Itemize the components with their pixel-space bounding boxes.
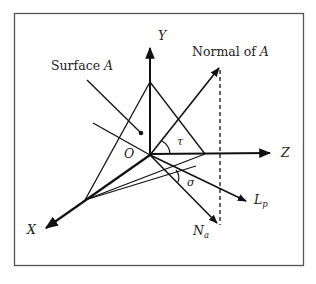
na-vector — [150, 155, 217, 223]
x-axis-label: X — [26, 222, 37, 237]
z-axis — [150, 153, 270, 154]
coordinate-diagram: Surface A Normal of A Y Z X O τ σ Lp Na — [0, 0, 316, 284]
surface-edge-line — [93, 123, 150, 155]
x-axis — [46, 155, 150, 228]
tau-label: τ — [177, 135, 184, 148]
normal-vector — [150, 68, 219, 155]
z-axis-label: Z — [280, 145, 290, 160]
normal-label: Normal of A — [192, 44, 269, 59]
surface-point — [139, 131, 144, 136]
surface-pointer-line — [87, 80, 141, 133]
tau-arc — [162, 141, 170, 154]
sigma-label: σ — [187, 176, 195, 189]
lp-vector — [150, 155, 246, 201]
y-axis-label: Y — [158, 28, 168, 43]
na-label: Na — [192, 223, 209, 240]
lp-label: Lp — [253, 192, 268, 209]
origin-label: O — [124, 146, 134, 161]
surface-label: Surface A — [51, 58, 113, 73]
